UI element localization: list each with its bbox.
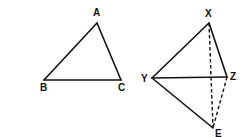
vertex-label-e: E	[215, 128, 222, 137]
edge-ab	[44, 23, 97, 80]
edge-xy	[152, 23, 209, 78]
vertex-label-y: Y	[141, 73, 148, 84]
edge-yz	[152, 77, 227, 78]
geometry-diagram: ABC XYZE	[0, 0, 243, 137]
edge-xz	[209, 23, 227, 77]
edge-ca	[97, 23, 121, 80]
edge-ye	[152, 78, 213, 128]
figure-xyze: XYZE	[141, 8, 236, 137]
vertex-label-b: B	[40, 82, 47, 93]
vertex-label-a: A	[93, 7, 100, 18]
vertex-label-z: Z	[230, 71, 236, 82]
edge-ze-dashed	[213, 77, 227, 128]
triangle-abc: ABC	[40, 7, 125, 93]
vertex-label-c: C	[118, 82, 125, 93]
edge-xe-dashed	[209, 23, 213, 128]
vertex-label-x: X	[205, 8, 212, 19]
